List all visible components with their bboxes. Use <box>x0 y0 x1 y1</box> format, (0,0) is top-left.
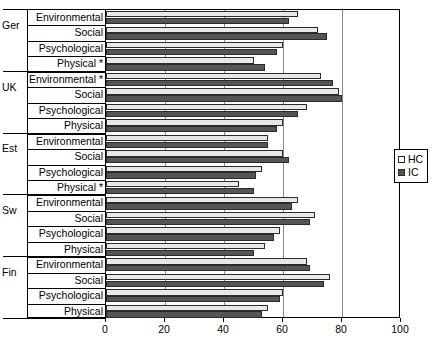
bar-ic <box>106 265 310 271</box>
bar-ic <box>106 281 324 287</box>
category-label: Environmental <box>36 134 103 149</box>
bar-ic <box>106 64 265 70</box>
x-tick <box>341 318 342 322</box>
label-divider <box>28 211 105 212</box>
bar-hc <box>106 42 283 48</box>
label-divider <box>28 72 105 73</box>
bar-hc <box>106 119 283 125</box>
bar-hc <box>106 88 339 94</box>
bar-ic <box>106 49 277 55</box>
x-tick <box>164 318 165 322</box>
label-divider <box>28 165 105 166</box>
category-label: Psychological <box>39 288 103 303</box>
group-label-est: Est <box>2 142 17 154</box>
category-label: Social <box>74 25 103 40</box>
group-label-uk: UK <box>2 81 17 93</box>
label-divider <box>28 25 105 26</box>
chart-legend: HC IC <box>394 149 428 183</box>
bar-hc <box>106 227 280 233</box>
category-label: Social <box>74 149 103 164</box>
group-label-fin: Fin <box>2 266 17 278</box>
label-divider <box>28 56 105 57</box>
x-tick-label: 40 <box>203 323 243 335</box>
category-label: Environmental * <box>29 72 103 87</box>
group-label-ger: Ger <box>2 19 20 31</box>
bar-ic <box>106 95 342 101</box>
legend-item-hc: HC <box>398 153 423 166</box>
label-divider <box>28 288 105 289</box>
bar-ic <box>106 18 289 24</box>
bar-hc <box>106 243 265 249</box>
x-tick-label: 80 <box>321 323 361 335</box>
category-label: Physical * <box>57 180 103 195</box>
category-label: Social <box>74 87 103 102</box>
category-label-table: EnvironmentalSocialPsychologicalPhysical… <box>27 9 105 318</box>
x-tick-label: 100 <box>380 323 420 335</box>
bar-hc <box>106 135 268 141</box>
chart-title <box>0 0 437 2</box>
category-label: Physical <box>64 242 103 257</box>
label-divider <box>28 41 105 42</box>
bar-ic <box>106 126 277 132</box>
x-tick <box>223 318 224 322</box>
bar-ic <box>106 172 256 178</box>
label-divider <box>28 103 105 104</box>
group-divider <box>3 256 105 257</box>
category-label: Psychological <box>39 165 103 180</box>
bar-hc <box>106 57 254 63</box>
horizontal-bar-chart: EnvironmentalSocialPsychologicalPhysical… <box>0 0 437 343</box>
legend-swatch-hc <box>398 156 405 163</box>
label-divider <box>28 118 105 119</box>
bar-hc <box>106 150 283 156</box>
bar-ic <box>106 203 292 209</box>
group-divider <box>3 71 105 72</box>
bar-ic <box>106 250 254 256</box>
bar-ic <box>106 234 274 240</box>
bar-ic <box>106 142 268 148</box>
label-divider <box>28 257 105 258</box>
category-label: Social <box>74 211 103 226</box>
bar-ic <box>106 111 298 117</box>
bar-hc <box>106 258 307 264</box>
category-label: Physical * <box>57 56 103 71</box>
category-label: Environmental <box>36 10 103 25</box>
label-divider <box>28 149 105 150</box>
bar-hc <box>106 27 318 33</box>
label-divider <box>28 87 105 88</box>
bar-ic <box>106 80 333 86</box>
bar-hc <box>106 73 321 79</box>
legend-item-ic: IC <box>398 166 423 179</box>
category-label: Social <box>74 273 103 288</box>
bar-hc <box>106 181 239 187</box>
legend-label-ic: IC <box>408 166 419 179</box>
category-label: Psychological <box>39 103 103 118</box>
group-divider <box>3 9 105 10</box>
bar-ic <box>106 188 254 194</box>
bar-ic <box>106 311 262 317</box>
bar-ic <box>106 219 310 225</box>
x-tick-label: 0 <box>85 323 125 335</box>
group-divider <box>3 318 105 319</box>
bar-hc <box>106 212 315 218</box>
x-tick <box>105 318 106 322</box>
label-divider <box>28 273 105 274</box>
label-divider <box>28 180 105 181</box>
bar-hc <box>106 104 307 110</box>
label-divider <box>28 304 105 305</box>
plot-area <box>105 9 400 318</box>
bar-hc <box>106 197 298 203</box>
bar-hc <box>106 274 330 280</box>
x-tick-label: 20 <box>144 323 184 335</box>
category-label: Environmental <box>36 195 103 210</box>
category-label: Psychological <box>39 226 103 241</box>
bar-hc <box>106 11 298 17</box>
bar-ic <box>106 33 327 39</box>
category-label: Psychological <box>39 41 103 56</box>
group-label-sw: Sw <box>2 204 17 216</box>
legend-label-hc: HC <box>408 153 423 166</box>
group-divider <box>3 194 105 195</box>
category-label: Physical <box>64 304 103 319</box>
bar-hc <box>106 289 283 295</box>
x-tick-label: 60 <box>262 323 302 335</box>
bar-ic <box>106 296 280 302</box>
